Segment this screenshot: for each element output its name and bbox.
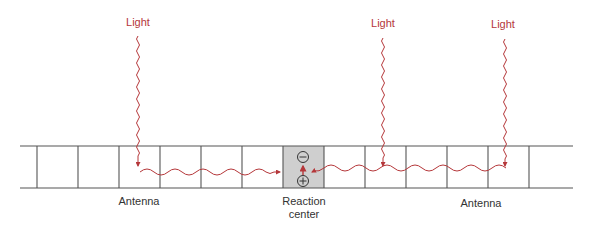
reaction-center-label-line1: Reaction (282, 195, 325, 207)
antenna-label-right: Antenna (461, 197, 503, 209)
cell-dividers (37, 146, 529, 188)
light-label-2: Light (371, 17, 395, 29)
light-wave-2 (382, 38, 385, 166)
light-wave-3 (504, 39, 507, 166)
antenna-label-left: Antenna (119, 195, 161, 207)
energy-transfer-right (312, 165, 506, 172)
energy-transfer-left (140, 169, 280, 175)
light-label-1: Light (126, 16, 150, 28)
reaction-center-label-line2: center (289, 208, 320, 220)
light-label-3: Light (491, 18, 515, 30)
antenna-diagram: Light Light Light Antenna Reaction cente… (0, 0, 607, 231)
